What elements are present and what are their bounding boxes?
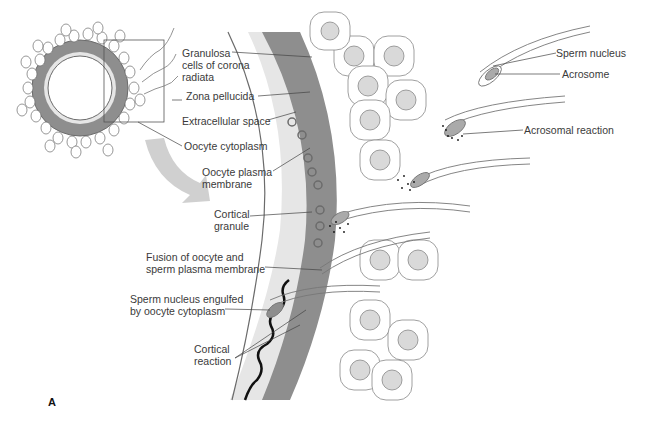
label-acrosome: Acrosome (562, 68, 609, 80)
acrosomal-granules (329, 125, 463, 233)
label-granulosa: Granulosa cells of corona radiata (182, 47, 250, 83)
label-sperm-nucleus: Sperm nucleus (556, 47, 626, 59)
oocyte-overview (17, 22, 178, 158)
label-sperm-engulfed: Sperm nucleus engulfed by oocyte cytopla… (130, 293, 243, 317)
fertilization-diagram (0, 0, 661, 425)
label-oocyte-cytoplasm: Oocyte cytoplasm (184, 140, 267, 152)
label-cortical-granule: Cortical granule (214, 208, 250, 232)
label-extracellular-space: Extracellular space (182, 115, 271, 127)
label-acrosomal-reaction: Acrosomal reaction (524, 124, 614, 136)
label-oocyte-plasma-membrane: Oocyte plasma membrane (202, 166, 272, 190)
label-cortical-reaction: Cortical reaction (194, 343, 231, 367)
panel-label: A (48, 396, 56, 408)
label-zona-pellucida: Zona pellucida (186, 90, 254, 102)
label-fusion: Fusion of oocyte and sperm plasma membra… (146, 251, 265, 275)
